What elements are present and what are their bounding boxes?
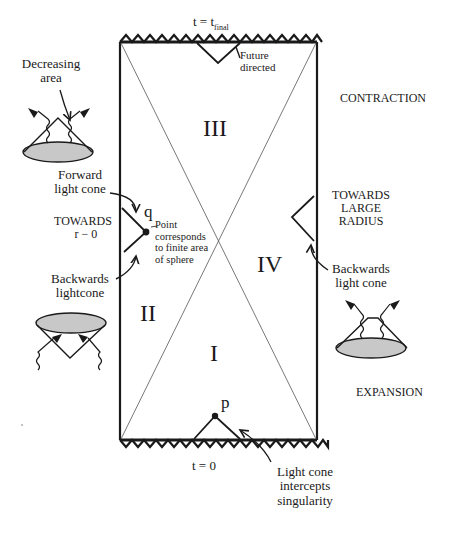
title-t-zero: t = 0	[192, 459, 216, 473]
right-cone-figure	[336, 300, 407, 358]
point-q-label: q	[144, 203, 153, 222]
towards-large-radius-label: TOWARDS LARGE RADIUS	[326, 189, 396, 229]
region-II-label: II	[140, 300, 156, 326]
backwards-light-cone-right-label: Backwards light cone	[327, 262, 395, 291]
horizon-diagonals	[121, 43, 316, 439]
point-p-label: p	[221, 394, 230, 413]
forward-light-cone-label: Forward light cone	[48, 168, 112, 197]
towards-r0-label: TOWARDS r − 0	[48, 215, 118, 241]
region-IV-label: IV	[257, 251, 282, 277]
point-q-dot	[143, 229, 150, 236]
light-cone-intercepts-label: Light cone intercepts singularity	[272, 465, 338, 508]
decreasing-area-label: Decreasing area	[18, 57, 84, 86]
expansion-label: EXPANSION	[356, 386, 423, 399]
title-t-final: t = tfinal	[193, 15, 229, 32]
future-directed-cone	[197, 43, 240, 63]
right-light-cone	[292, 196, 314, 241]
right-backwards-pointer	[311, 245, 328, 270]
contraction-label: CONTRACTION	[340, 92, 426, 105]
region-I-label: I	[210, 340, 218, 366]
backwards-lightcone-figure	[36, 313, 106, 370]
region-III-label: III	[203, 115, 227, 141]
q-light-cone	[122, 208, 146, 252]
point-p-dot	[212, 413, 218, 419]
backwards-lightcone-label: Backwards lightcone	[45, 272, 115, 301]
future-directed-label: Future directed	[240, 49, 275, 73]
decreasing-area-cone-figure	[23, 90, 93, 162]
point-corresponds-label: Point corresponds to finite area of sphe…	[155, 219, 208, 265]
p-light-cone	[194, 416, 240, 439]
